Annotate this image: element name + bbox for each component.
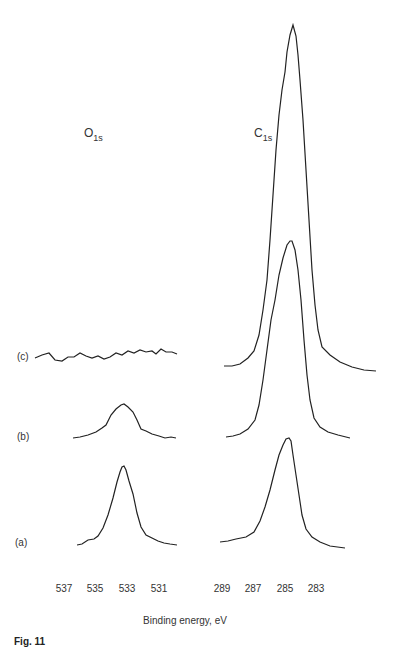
o1s-label-sub: 1s <box>93 133 103 143</box>
trace-label-b: (b) <box>17 431 29 442</box>
c1s-trace-b <box>226 241 350 438</box>
o1s-trace-c <box>35 349 177 361</box>
o-tick-531: 531 <box>151 583 168 594</box>
c-tick-289: 289 <box>214 583 231 594</box>
o-tick-533: 533 <box>119 583 136 594</box>
c-tick-283: 283 <box>308 583 325 594</box>
c1s-label: C1s <box>254 126 272 143</box>
c1s-label-sub: 1s <box>263 133 273 143</box>
trace-label-a: (a) <box>15 537 27 548</box>
c1s-trace-c <box>224 25 376 371</box>
o1s-trace-a <box>77 466 177 545</box>
o1s-label-main: O <box>84 126 93 140</box>
o-tick-537: 537 <box>56 583 73 594</box>
c1s-trace-a <box>220 438 345 548</box>
c-tick-287: 287 <box>245 583 262 594</box>
x-axis-label: Binding energy, eV <box>143 615 227 626</box>
c1s-label-main: C <box>254 126 263 140</box>
c-tick-285: 285 <box>277 583 294 594</box>
o1s-trace-b <box>73 404 176 438</box>
o1s-label: O1s <box>84 126 103 143</box>
trace-label-c: (c) <box>17 351 29 362</box>
figure-caption: Fig. 11 <box>14 636 45 647</box>
o-tick-535: 535 <box>87 583 104 594</box>
